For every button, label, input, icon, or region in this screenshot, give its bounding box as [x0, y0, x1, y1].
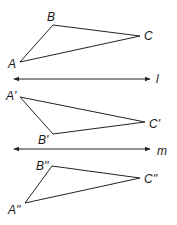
- triangle-abc: A B C: [7, 10, 153, 71]
- vertex-label-b-double-prime: B'': [36, 159, 49, 173]
- reflection-diagram: A B C l A' B' C' m A'' B'' C'': [0, 0, 177, 225]
- vertex-label-a-double-prime: A'': [7, 203, 21, 217]
- triangle-abc-shape: [20, 25, 140, 62]
- vertex-label-c-double-prime: C'': [144, 172, 158, 186]
- triangle-a-double-prime: A'' B'' C'': [7, 159, 158, 217]
- vertex-label-c: C: [144, 29, 153, 43]
- vertex-label-a: A: [7, 57, 16, 71]
- triangle-a-prime: A' B' C': [5, 89, 161, 147]
- line-m-label: m: [157, 144, 167, 158]
- line-m: m: [14, 144, 167, 158]
- vertex-label-b: B: [47, 10, 55, 24]
- vertex-label-c-prime: C': [149, 117, 161, 131]
- line-l-label: l: [156, 72, 159, 86]
- vertex-label-b-prime: B': [38, 133, 49, 147]
- triangle-a-prime-shape: [20, 97, 145, 134]
- vertex-label-a-prime: A': [5, 89, 17, 103]
- line-l: l: [14, 72, 159, 86]
